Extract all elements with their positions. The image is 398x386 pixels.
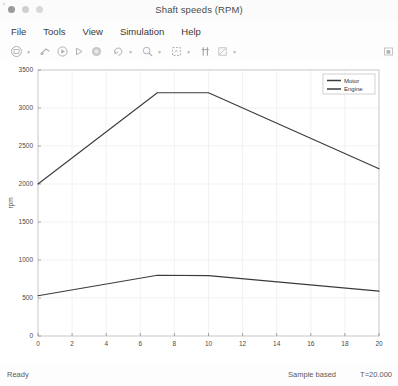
x-axis-tick-label: 16 (307, 340, 315, 347)
toolbar: ▼ (0, 41, 398, 62)
plot-area[interactable]: 0500100015002000250030003500024681012141… (0, 62, 398, 366)
style-icon[interactable] (214, 43, 231, 60)
x-axis-tick-label: 6 (138, 340, 142, 347)
y-axis-tick-label: 3000 (19, 104, 34, 111)
x-axis-tick-label: 14 (273, 340, 281, 347)
scope-window: r Shaft speeds (RPM) File Tools View Sim… (0, 0, 398, 386)
menu-item-view[interactable]: View (83, 26, 103, 37)
autoscale-chevron-down-icon[interactable]: ▼ (185, 43, 192, 60)
window-title: Shaft speeds (RPM) (0, 4, 398, 15)
menu-bar: File Tools View Simulation Help (0, 22, 398, 41)
zoom-chevron-down-icon[interactable]: ▼ (156, 43, 163, 60)
scope-chart[interactable]: 0500100015002000250030003500024681012141… (0, 62, 398, 366)
y-axis-tick-label: 500 (22, 294, 33, 301)
print-icon[interactable] (8, 43, 25, 60)
step-forward-icon[interactable] (71, 43, 88, 60)
y-axis-tick-label: 0 (29, 332, 33, 339)
y-axis-tick-label: 2500 (19, 142, 34, 149)
x-axis-tick-label: 8 (173, 340, 177, 347)
autoscale-icon[interactable] (168, 43, 185, 60)
x-axis-tick-label: 4 (104, 340, 108, 347)
configuration-icon[interactable] (37, 43, 54, 60)
restore-view-icon[interactable] (110, 43, 127, 60)
x-axis-tick-label: 0 (36, 340, 40, 347)
y-axis-label: rpm (7, 197, 15, 208)
x-axis-tick-label: 18 (341, 340, 349, 347)
restore-view-chevron-down-icon[interactable]: ▼ (127, 43, 134, 60)
docking-icon[interactable] (383, 44, 394, 57)
status-time-text: T=20.000 (360, 370, 392, 379)
y-axis-tick-label: 3500 (19, 66, 34, 73)
title-bar: r Shaft speeds (RPM) (0, 0, 398, 22)
menu-item-file[interactable]: File (11, 26, 26, 37)
status-mode-text: Sample based (288, 370, 336, 379)
status-bar: Ready Sample based T=20.000 (0, 366, 398, 386)
x-axis-tick-label: 20 (375, 340, 383, 347)
legend-label-engine: Engine (344, 86, 363, 92)
run-icon[interactable] (54, 43, 71, 60)
menu-item-tools[interactable]: Tools (43, 26, 65, 37)
menu-item-help[interactable]: Help (181, 26, 201, 37)
y-axis-tick-label: 1000 (19, 256, 34, 263)
cursor-measure-icon[interactable] (197, 43, 214, 60)
y-axis-tick-label: 1500 (19, 218, 34, 225)
zoom-icon[interactable] (139, 43, 156, 60)
x-axis-tick-label: 2 (70, 340, 74, 347)
x-axis-tick-label: 12 (239, 340, 247, 347)
x-axis-tick-label: 10 (205, 340, 213, 347)
status-ready-text: Ready (7, 370, 29, 379)
y-axis-tick-label: 2000 (19, 180, 34, 187)
style-chevron-down-icon[interactable]: ▼ (231, 43, 238, 60)
stop-icon[interactable] (88, 43, 105, 60)
legend-label-motor: Motor (344, 78, 359, 84)
menu-item-simulation[interactable]: Simulation (120, 26, 164, 37)
print-chevron-down-icon[interactable]: ▼ (25, 43, 32, 60)
